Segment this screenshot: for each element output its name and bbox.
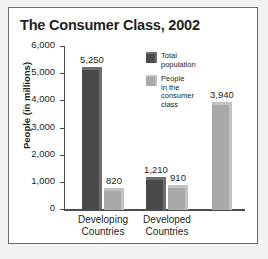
bar-value-label: 820 [106, 175, 122, 186]
bar-side-face [163, 180, 166, 210]
y-tick-label-6000: 6,000 [31, 39, 55, 50]
chart-legend: Total population People in the consumer … [146, 52, 195, 116]
bar-side-face [229, 105, 232, 210]
y-axis-label: People (in millions) [21, 58, 32, 154]
bar-front-face [146, 180, 163, 210]
y-tick-label-2000: 2,000 [31, 148, 55, 159]
legend-label-line-2: population [161, 61, 195, 70]
legend-label-line-4: class [161, 101, 194, 110]
y-tick-2000: 2,000 [60, 155, 65, 156]
y-tick-0: 0 [60, 209, 65, 210]
y-tick-4000: 4,000 [60, 100, 65, 101]
bar-side-face [121, 191, 124, 210]
x-category-line-2: Countries [69, 226, 137, 238]
bar-developed-total-population[interactable]: 1,210 [146, 177, 166, 210]
bar-front-face [82, 70, 99, 211]
bar-value-label: 3,940 [210, 89, 234, 100]
bar-value-label: 5,250 [80, 54, 104, 65]
bar-front-face [168, 188, 185, 210]
chart-frame: The Consumer Class, 2002 People (in mill… [8, 7, 258, 244]
legend-label-consumer-class: People in the consumer class [161, 75, 194, 109]
x-category-line-1: Developing [69, 214, 137, 226]
x-category-developed: Developed Countries [135, 214, 199, 237]
y-tick-label-3000: 3,000 [31, 121, 55, 132]
legend-item-consumer-class[interactable]: People in the consumer class [146, 75, 195, 109]
y-tick-label-4000: 4,000 [31, 93, 55, 104]
legend-swatch-icon [146, 52, 157, 63]
chart-screenshot: The Consumer Class, 2002 People (in mill… [0, 0, 268, 259]
legend-swatch-icon [146, 75, 157, 86]
legend-item-total-population[interactable]: Total population [146, 52, 195, 69]
bar-developing-consumer-class[interactable]: 820 [104, 188, 124, 210]
y-tick-label-5000: 5,000 [31, 66, 55, 77]
y-tick-1000: 1,000 [60, 182, 65, 183]
bar-front-face [212, 105, 229, 210]
bar-world-consumer-class[interactable]: 3,940 [212, 102, 232, 210]
y-tick-label-1000: 1,000 [31, 175, 55, 186]
bar-side-face [99, 70, 102, 211]
chart-title: The Consumer Class, 2002 [20, 17, 200, 33]
swatch-side-face [155, 77, 157, 86]
bar-front-face [104, 191, 121, 210]
x-category-developing: Developing Countries [69, 214, 137, 237]
y-tick-5000: 5,000 [60, 73, 65, 74]
bar-developed-consumer-class[interactable]: 910 [168, 185, 188, 210]
y-tick-label-0: 0 [50, 202, 55, 213]
swatch-front-face [146, 77, 155, 86]
swatch-side-face [155, 54, 157, 63]
bar-value-label: 910 [170, 172, 186, 183]
y-tick-6000: 6,000 [60, 46, 65, 47]
x-category-line-2: Countries [135, 226, 199, 238]
bar-developing-total-population[interactable]: 5,250 [82, 67, 102, 211]
bar-value-label: 1,210 [144, 164, 168, 175]
x-category-line-1: Developed [135, 214, 199, 226]
y-tick-3000: 3,000 [60, 128, 65, 129]
swatch-front-face [146, 54, 155, 63]
bar-side-face [185, 188, 188, 210]
legend-label-total-population: Total population [161, 52, 195, 69]
